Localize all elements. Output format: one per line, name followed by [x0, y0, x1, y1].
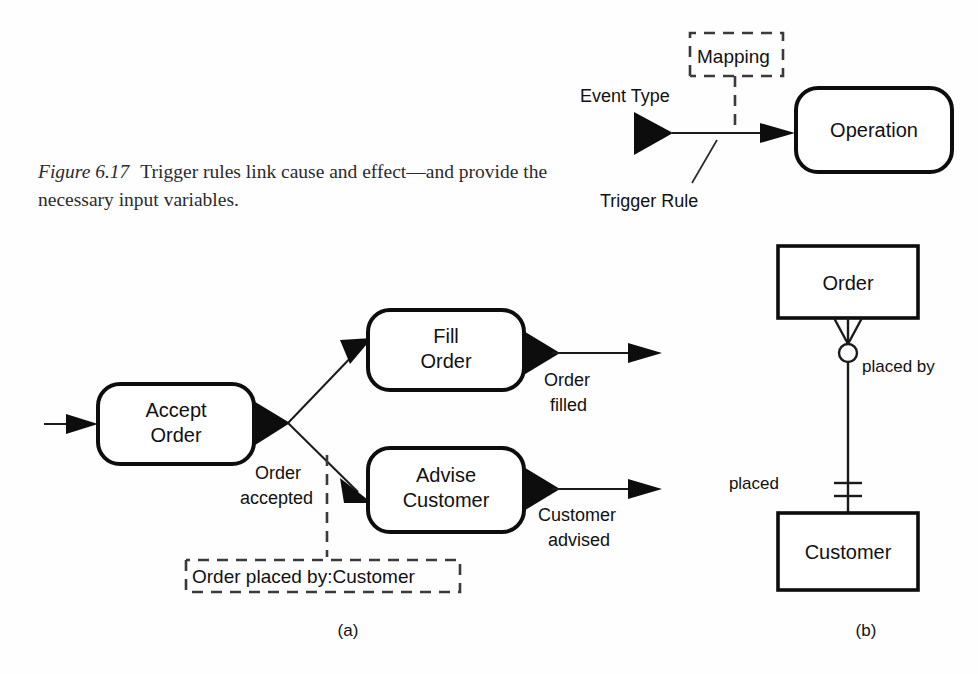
figure-diagram: Event Type Mapping Trigger Rule Operatio… — [0, 0, 978, 674]
advise-customer-box-line1: Advise — [416, 464, 476, 486]
customer-advised-arrowhead-icon — [628, 479, 662, 499]
advise-customer-box-line2: Customer — [403, 489, 490, 511]
inbound-flow-arrowhead-icon — [66, 414, 98, 434]
sublabel-b: (b) — [856, 621, 877, 640]
event-type-label: Event Type — [580, 86, 670, 106]
mapping-note: Mapping — [690, 33, 783, 76]
fill-order-box-line1: Fill — [433, 325, 459, 347]
order-entity-label: Order — [822, 272, 873, 294]
optionality-circle-icon — [839, 344, 857, 362]
accept-order-box-line2: Order — [150, 424, 201, 446]
order-accepted-triangle-icon — [252, 400, 290, 447]
branch-to-fill-order-line — [288, 350, 358, 423]
mapping-note-label: Mapping — [697, 46, 770, 67]
customer-advised-label-line1: Customer — [538, 505, 616, 525]
trigger-rule-leader — [692, 140, 717, 183]
trigger-flow-arrowhead-icon — [760, 123, 795, 143]
crowsfoot-left-prong-icon — [834, 318, 848, 344]
accept-order-box-line1: Accept — [145, 399, 207, 421]
order-accepted-label-line2: accepted — [240, 488, 313, 508]
trigger-rule-diagram: Event Type Mapping Trigger Rule Operatio… — [580, 33, 952, 211]
order-placed-by-note: Order placed by:Customer — [186, 560, 460, 592]
order-accepted-label-line1: Order — [255, 463, 301, 483]
entity-relationship-diagram: Order placed by placed Customer — [729, 246, 935, 590]
order-filled-arrowhead-icon — [628, 343, 662, 363]
role-placed-by-label: placed by — [862, 357, 935, 376]
event-type-triangle-icon — [634, 112, 673, 155]
crowsfoot-right-prong-icon — [848, 318, 862, 344]
operation-box-label: Operation — [830, 119, 918, 141]
order-filled-label-line2: filled — [550, 395, 587, 415]
order-filled-label-line1: Order — [544, 370, 590, 390]
sublabel-a: (a) — [338, 621, 359, 640]
customer-entity-label: Customer — [805, 541, 892, 563]
process-flow-diagram: Accept Order Order accepted Fill Order O… — [44, 310, 662, 592]
customer-advised-label-line2: advised — [548, 530, 610, 550]
figure-page: Figure 6.17Trigger rules link cause and … — [0, 0, 978, 674]
fill-order-box-line2: Order — [420, 350, 471, 372]
role-placed-label: placed — [729, 474, 779, 493]
trigger-rule-label: Trigger Rule — [600, 191, 698, 211]
order-placed-by-note-label: Order placed by:Customer — [192, 566, 415, 587]
